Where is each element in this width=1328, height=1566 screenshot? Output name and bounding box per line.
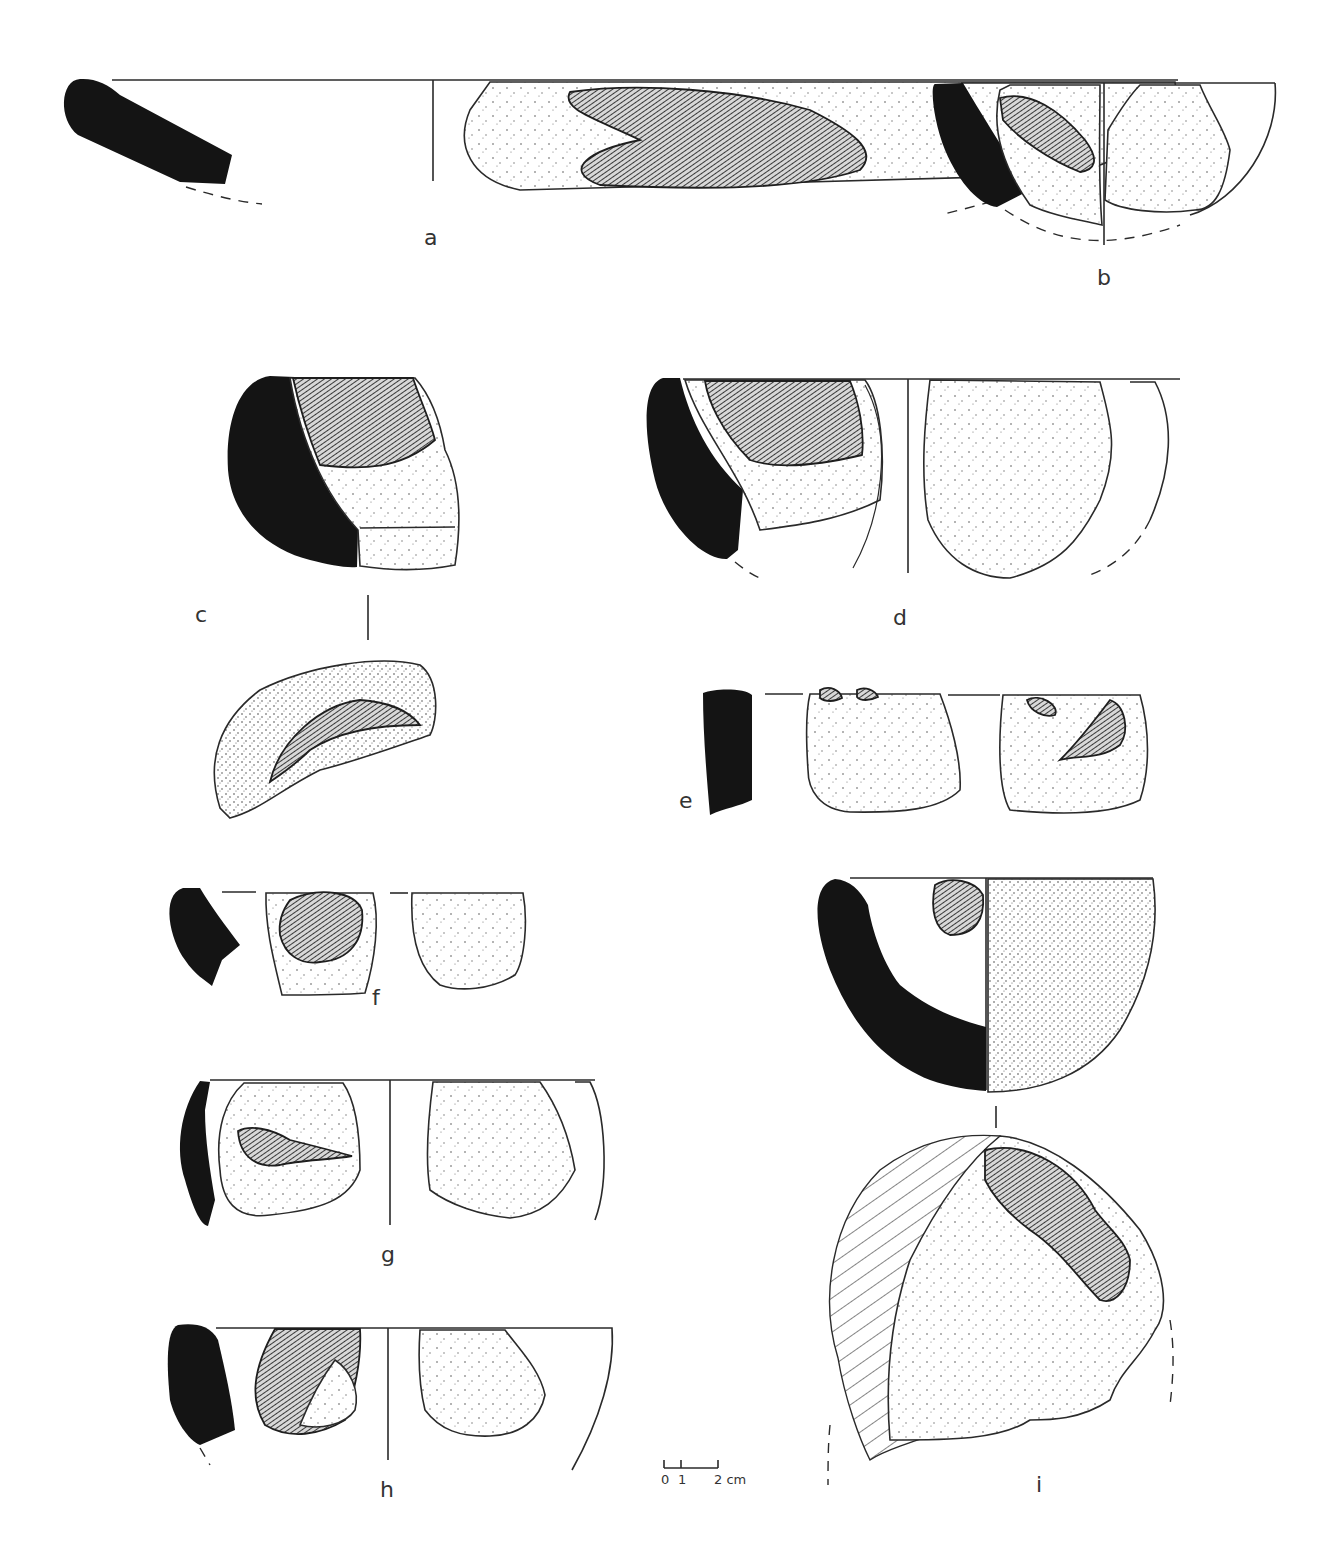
scale-bar: 0 1 2 cm xyxy=(661,1460,746,1487)
figure-label-f: f xyxy=(372,985,381,1010)
figure-f: f xyxy=(169,888,525,1010)
profile-section-a xyxy=(64,79,232,184)
pottery-plate: a b c d xyxy=(0,0,1328,1566)
figure-label-c: c xyxy=(195,602,207,627)
scale-tick-1: 1 xyxy=(678,1472,686,1487)
figure-d: d xyxy=(647,378,1180,630)
figure-label-b: b xyxy=(1097,265,1111,290)
figure-label-i: i xyxy=(1036,1472,1042,1497)
figure-label-e: e xyxy=(679,788,693,813)
profile-section-g xyxy=(180,1081,215,1226)
figure-h: h xyxy=(168,1324,613,1502)
scale-tick-0: 0 xyxy=(661,1472,669,1487)
figure-label-g: g xyxy=(381,1242,395,1267)
figure-label-h: h xyxy=(380,1477,394,1502)
figure-c: c xyxy=(195,376,459,818)
profile-section-h xyxy=(168,1324,235,1445)
figure-i: i xyxy=(818,878,1174,1497)
figure-g: g xyxy=(180,1080,604,1267)
profile-section-e xyxy=(703,689,752,815)
figure-label-d: d xyxy=(893,605,907,630)
profile-section-f xyxy=(169,888,240,986)
figure-label-a: a xyxy=(424,225,437,250)
scale-tick-2: 2 cm xyxy=(714,1472,746,1487)
figure-e: e xyxy=(679,688,1148,815)
